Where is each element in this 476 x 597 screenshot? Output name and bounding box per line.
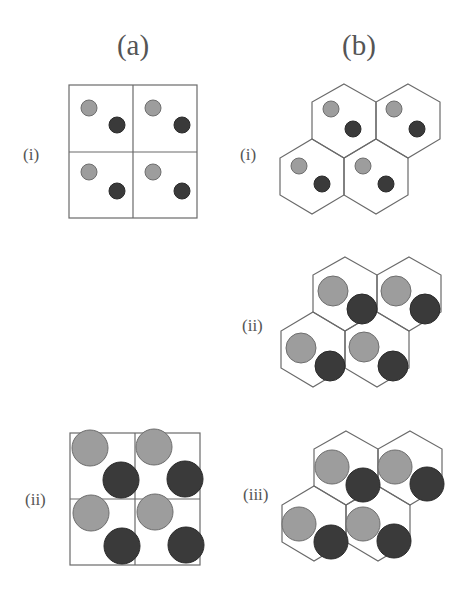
light-particle bbox=[137, 494, 173, 530]
light-particle bbox=[72, 430, 108, 466]
dark-particle bbox=[109, 117, 125, 133]
dark-particle bbox=[174, 117, 190, 133]
dark-particle bbox=[314, 525, 348, 559]
dark-particle bbox=[345, 121, 361, 137]
dark-particle bbox=[409, 121, 425, 137]
dark-particle bbox=[174, 183, 190, 199]
column-label-a: (a) bbox=[117, 29, 149, 62]
row-label-a-i: (i) bbox=[23, 145, 39, 164]
row-label-b-ii: (ii) bbox=[242, 316, 263, 335]
dark-particle bbox=[168, 527, 204, 563]
dark-particle bbox=[104, 528, 140, 564]
panel-b-ii bbox=[281, 257, 441, 387]
dark-particle bbox=[347, 294, 377, 324]
column-label-b: (b) bbox=[342, 29, 376, 62]
dark-particle bbox=[377, 524, 411, 558]
panel-b-i bbox=[280, 84, 440, 214]
dark-particle bbox=[410, 467, 444, 501]
lattice-diagram: (a) (b) (i) (ii) (i) (ii) (iii) bbox=[0, 0, 476, 597]
light-particle bbox=[323, 101, 339, 117]
panel-a-ii bbox=[70, 429, 204, 565]
row-label-a-ii: (ii) bbox=[25, 490, 46, 509]
dark-particle bbox=[103, 462, 139, 498]
light-particle bbox=[136, 429, 172, 465]
light-particle bbox=[349, 332, 379, 362]
hex-cell bbox=[280, 139, 344, 214]
light-particle bbox=[81, 100, 97, 116]
light-particle bbox=[386, 101, 402, 117]
light-particle bbox=[145, 100, 161, 116]
panel-b-iii bbox=[282, 431, 444, 561]
dark-particle bbox=[314, 176, 330, 192]
panel-a-i bbox=[69, 85, 197, 218]
row-label-b-iii: (iii) bbox=[243, 485, 269, 504]
light-particle bbox=[73, 495, 109, 531]
dark-particle bbox=[410, 294, 440, 324]
light-particle bbox=[378, 450, 412, 484]
dark-particle bbox=[167, 461, 203, 497]
light-particle bbox=[291, 158, 307, 174]
hex-cell bbox=[344, 139, 408, 214]
row-label-b-i: (i) bbox=[240, 145, 256, 164]
hex-cell bbox=[312, 84, 376, 158]
light-particle bbox=[318, 276, 348, 306]
light-particle bbox=[355, 158, 371, 174]
light-particle bbox=[282, 507, 316, 541]
light-particle bbox=[315, 450, 349, 484]
light-particle bbox=[81, 164, 97, 180]
light-particle bbox=[346, 507, 380, 541]
dark-particle bbox=[378, 176, 394, 192]
dark-particle bbox=[378, 351, 408, 381]
dark-particle bbox=[315, 351, 345, 381]
light-particle bbox=[145, 164, 161, 180]
light-particle bbox=[286, 333, 316, 363]
dark-particle bbox=[346, 468, 380, 502]
hex-cell bbox=[376, 84, 440, 158]
dark-particle bbox=[109, 183, 125, 199]
light-particle bbox=[381, 276, 411, 306]
